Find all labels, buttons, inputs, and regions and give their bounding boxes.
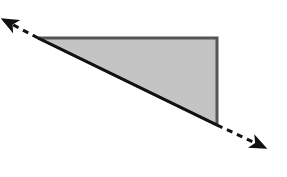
diagram-canvas — [0, 0, 287, 177]
dashed-extension-start — [2, 19, 38, 38]
dashed-extension-end — [217, 125, 266, 148]
